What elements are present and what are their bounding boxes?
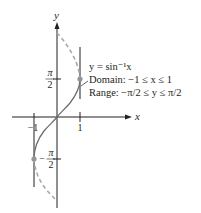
y-tick-label-neg-sign: − (39, 153, 45, 164)
x-tick-label-neg1: −1 (28, 122, 39, 133)
endpoint-upper (77, 76, 82, 81)
y-tick-label-pi-den: 2 (48, 79, 53, 90)
x-tick-label-1: 1 (78, 122, 83, 133)
dashed-extension-lower (34, 159, 57, 201)
inverse-sine-graph: π 2 − π 2 −1 1 x y (0, 0, 201, 213)
domain-label: Domain: −1 ≤ x ≤ 1 (89, 74, 172, 86)
y-axis-arrow-icon (55, 22, 60, 29)
y-tick-label-neg-pi-num: π (48, 147, 54, 158)
dashed-extension-upper (57, 33, 80, 79)
y-tick-label-pi-num: π (47, 67, 53, 78)
x-axis-arrow-icon (125, 115, 132, 120)
function-label: y = sin⁻¹x (89, 61, 132, 73)
y-tick-label-neg-pi-den: 2 (49, 159, 54, 170)
y-axis-label: y (53, 9, 59, 21)
endpoint-lower (31, 156, 36, 161)
range-label: Range: −π/2 ≤ y ≤ π/2 (89, 87, 182, 99)
label-pointer (81, 81, 88, 86)
x-axis-label: x (134, 110, 140, 122)
